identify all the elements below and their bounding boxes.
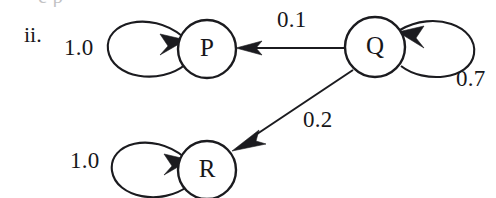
edge-q-to-p <box>236 41 345 55</box>
node-r-label: R <box>199 155 216 182</box>
node-p[interactable]: P <box>178 20 236 78</box>
node-p-label: P <box>200 34 214 61</box>
state-diagram-figure: e p P <box>0 0 496 198</box>
edge-weight-q-to-p: 0.1 <box>277 8 307 31</box>
edge-p-to-p-selfloop <box>108 22 186 77</box>
edge-weight-r-self: 1.0 <box>70 149 100 172</box>
item-enumerator-label: ii. <box>24 24 42 46</box>
node-q-label: Q <box>366 32 384 59</box>
node-q[interactable]: Q <box>345 17 405 77</box>
edge-weight-p-self: 1.0 <box>64 36 94 59</box>
edge-r-to-r-curve <box>112 143 188 198</box>
edge-weight-q-self: 0.7 <box>456 67 486 90</box>
node-r[interactable]: R <box>178 141 236 198</box>
edge-q-to-r-arrowhead <box>232 130 266 151</box>
edge-q-to-r <box>232 70 353 151</box>
edge-weight-q-to-r: 0.2 <box>303 108 333 131</box>
edge-p-to-p-curve <box>108 22 186 77</box>
